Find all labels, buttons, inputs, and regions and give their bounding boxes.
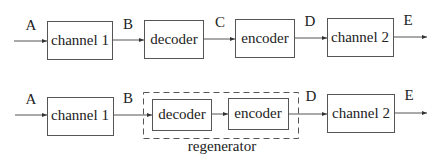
block-label-channel-2: channel 2: [331, 29, 389, 45]
signal-label-d: D: [305, 13, 316, 29]
signal-label-b: B: [123, 16, 133, 32]
block-label-channel-2-2: channel 2: [332, 105, 390, 121]
signal-label-c: C: [215, 14, 225, 30]
regenerator-diagram: A B C D E channel 1 decoder encoder chan…: [0, 0, 441, 156]
block-label-encoder-2: encoder: [234, 105, 281, 121]
signal-label-e-2: E: [404, 87, 413, 103]
signal-label-a-2: A: [26, 91, 37, 107]
signal-label-d-2: D: [306, 88, 317, 104]
block-label-channel-1: channel 1: [51, 32, 109, 48]
signal-label-a: A: [26, 17, 37, 33]
signal-label-b-2: B: [123, 90, 133, 106]
regenerator-label: regenerator: [188, 138, 256, 154]
block-label-decoder: decoder: [150, 31, 197, 47]
block-label-channel-1-2: channel 1: [51, 107, 109, 123]
block-label-decoder-2: decoder: [158, 106, 205, 122]
block-label-encoder: encoder: [241, 30, 288, 46]
signal-label-e: E: [403, 12, 412, 28]
